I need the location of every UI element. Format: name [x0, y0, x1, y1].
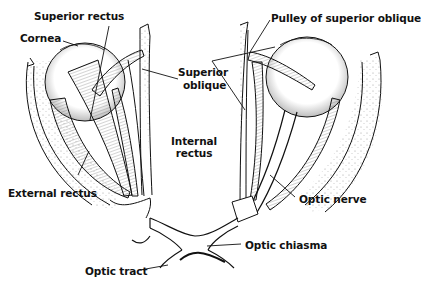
optic-chiasma-drawing — [132, 218, 238, 268]
label-optic-chiasma: Optic chiasma — [245, 239, 327, 251]
label-superior-oblique-line1: Superior — [178, 66, 228, 78]
label-superior-rectus: Superior rectus — [34, 10, 124, 22]
label-pulley-of-superior-oblique: Pulley of superior oblique — [271, 12, 421, 24]
label-external-rectus: External rectus — [8, 187, 97, 199]
label-internal-rectus-line1: Internal — [171, 135, 217, 147]
label-internal-rectus: Internal rectus — [170, 135, 218, 159]
label-cornea: Cornea — [20, 32, 61, 44]
label-internal-rectus-line2: rectus — [176, 147, 213, 159]
label-optic-nerve: Optic nerve — [299, 193, 367, 205]
label-superior-oblique-line2: oblique — [183, 79, 226, 91]
label-optic-tract: Optic tract — [85, 265, 147, 277]
